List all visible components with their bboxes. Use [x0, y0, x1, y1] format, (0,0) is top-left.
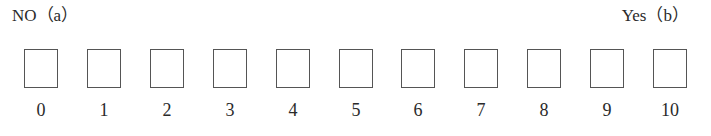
option-label-8: 8 — [540, 99, 549, 121]
checkbox-4[interactable] — [276, 49, 310, 88]
scale-option-6: 6 — [396, 49, 440, 121]
scale-option-5: 5 — [334, 49, 378, 121]
checkbox-9[interactable] — [590, 49, 624, 88]
option-label-1: 1 — [100, 99, 109, 121]
option-label-9: 9 — [603, 99, 612, 121]
option-label-7: 7 — [477, 99, 486, 121]
scale-option-4: 4 — [271, 49, 315, 121]
checkbox-5[interactable] — [339, 49, 373, 88]
checkbox-2[interactable] — [150, 49, 184, 88]
rating-scale-0-10: 0 1 2 3 4 5 6 7 8 9 10 — [0, 0, 711, 136]
option-label-6: 6 — [414, 99, 423, 121]
option-label-3: 3 — [226, 99, 235, 121]
option-label-4: 4 — [289, 99, 298, 121]
scale-option-3: 3 — [208, 49, 252, 121]
scale-option-2: 2 — [145, 49, 189, 121]
scale-option-1: 1 — [82, 49, 126, 121]
checkbox-7[interactable] — [464, 49, 498, 88]
option-label-2: 2 — [163, 99, 172, 121]
scale-option-7: 7 — [459, 49, 503, 121]
checkbox-3[interactable] — [213, 49, 247, 88]
scale-option-9: 9 — [585, 49, 629, 121]
option-label-5: 5 — [352, 99, 361, 121]
option-label-0: 0 — [37, 99, 46, 121]
checkbox-0[interactable] — [24, 49, 58, 88]
checkbox-1[interactable] — [87, 49, 121, 88]
scale-option-10: 10 — [648, 49, 692, 121]
option-label-10: 10 — [661, 99, 679, 121]
checkbox-6[interactable] — [401, 49, 435, 88]
checkbox-10[interactable] — [653, 49, 687, 88]
checkbox-8[interactable] — [527, 49, 561, 88]
scale-option-8: 8 — [522, 49, 566, 121]
scale-option-0: 0 — [19, 49, 63, 121]
